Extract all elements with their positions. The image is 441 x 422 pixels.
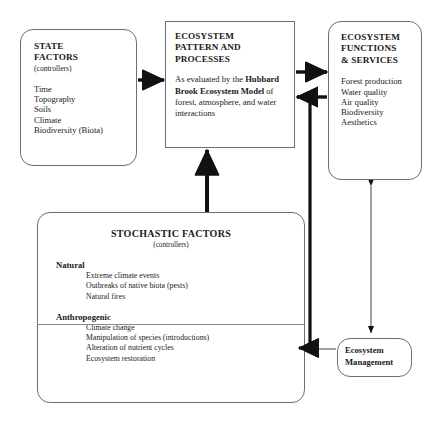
state-factors-subheading: (controllers) — [34, 64, 136, 74]
stochastic-factors-title: STOCHASTIC FACTORS — [38, 213, 304, 239]
list-item: Biodiversity — [341, 107, 421, 117]
ecosystem-pattern-heading: ECOSYSTEM PATTERN AND PROCESSES — [175, 31, 286, 65]
stochastic-factors-subtitle: (controllers) — [38, 239, 304, 249]
ecosystem-pattern-description: As evaluated by the Hubbard Brook Ecosys… — [175, 74, 286, 120]
stochastic-factors-box: STOCHASTIC FACTORS (controllers) Natural… — [37, 212, 305, 403]
group-label: Anthropogenic — [56, 312, 304, 323]
stochastic-anthropogenic-group: Anthropogenic Climate change Manipulatio… — [38, 312, 304, 364]
state-factors-heading: STATE FACTORS — [34, 41, 136, 64]
list-item: Biodiversity (Biota) — [34, 125, 136, 135]
stochastic-natural-group: Natural Extreme climate events Outbreaks… — [38, 260, 304, 302]
list-item: Climate — [34, 115, 136, 125]
group-items: Extreme climate events Outbreaks of nati… — [56, 271, 304, 302]
list-item: Natural fires — [86, 292, 304, 302]
list-item: Outbreaks of native biota (pests) — [86, 281, 304, 291]
stochastic-section-divider — [38, 324, 304, 325]
list-item: Extreme climate events — [86, 271, 304, 281]
diagram-canvas: STATE FACTORS (controllers) Time Topogra… — [0, 0, 441, 422]
state-factors-box: STATE FACTORS (controllers) Time Topogra… — [20, 29, 137, 166]
list-item: Aesthetics — [341, 117, 421, 127]
list-item: Topography — [34, 94, 136, 104]
list-item: Ecosystem restoration — [86, 354, 304, 364]
list-item: Time — [34, 84, 136, 94]
list-item: Forest production — [341, 76, 421, 86]
list-item: Soils — [34, 104, 136, 114]
list-item: Water quality — [341, 87, 421, 97]
ecosystem-functions-list: Forest production Water quality Air qual… — [341, 76, 421, 127]
group-label: Natural — [56, 260, 304, 271]
list-item: Alteration of nutrient cycles — [86, 343, 304, 353]
ecosystem-management-box: Ecosystem Management — [337, 338, 412, 377]
state-factors-list: Time Topography Soils Climate Biodiversi… — [34, 84, 136, 135]
list-item: Manipulation of species (introductions) — [86, 333, 304, 343]
list-item: Air quality — [341, 97, 421, 107]
description-lead: As evaluated by the — [175, 74, 245, 84]
ecosystem-pattern-box: ECOSYSTEM PATTERN AND PROCESSES As evalu… — [165, 21, 295, 148]
ecosystem-functions-heading: ECOSYSTEM FUNCTIONS & SERVICES — [341, 32, 421, 66]
ecosystem-functions-box: ECOSYSTEM FUNCTIONS & SERVICES Forest pr… — [328, 21, 422, 180]
ecosystem-management-label: Ecosystem Management — [338, 339, 411, 368]
group-items: Climate change Manipulation of species (… — [56, 323, 304, 364]
